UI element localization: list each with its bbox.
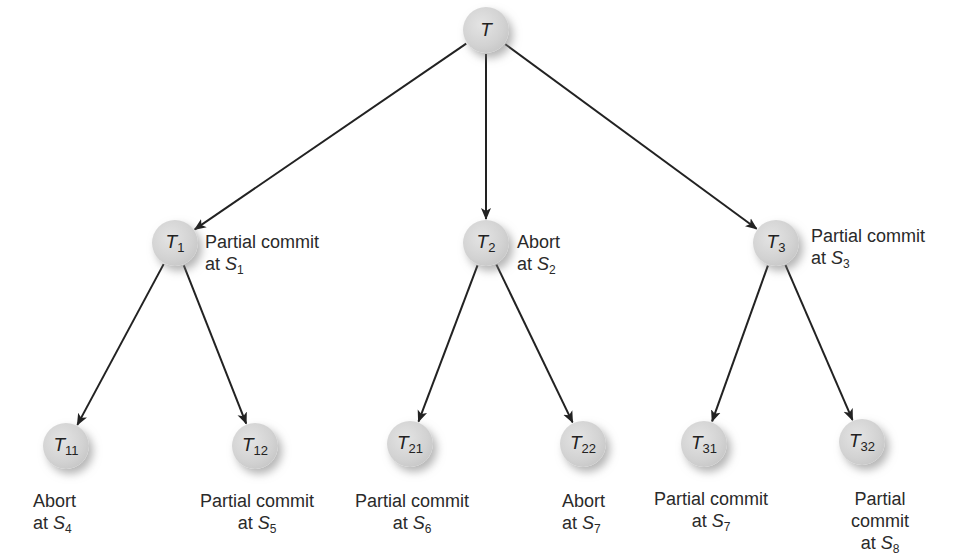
annotation-status: Abort [33,490,76,512]
annotation-t32: Partial commit at S8 [830,488,930,559]
node-t1: T1 [152,220,198,266]
annotation-at: at [861,533,876,553]
annotation-status: Abort [562,490,605,512]
node-label: T21 [397,432,423,456]
node-t2: T2 [463,220,509,266]
node-label: T2 [477,231,496,255]
site-label: S5 [258,513,277,533]
site-label: S3 [831,248,850,268]
annotation-t11: Abort at S4 [33,490,76,540]
annotation-status: Partial commit [355,490,469,512]
node-label: T3 [767,231,786,255]
annotation-at: at [238,513,253,533]
site-label: S2 [537,254,556,274]
annotation-t3: Partial commit at S3 [811,225,925,275]
annotation-status: Partial commit [205,231,319,253]
node-t22: T22 [560,421,606,467]
node-label: T1 [166,231,185,255]
site-label: S8 [881,533,900,553]
node-label: T12 [242,434,268,458]
annotation-t1: Partial commit at S1 [205,231,319,281]
annotation-t31: Partial commit at S7 [654,488,768,538]
node-t21: T21 [387,421,433,467]
edge-t3-t32 [786,265,853,420]
node-t31: T31 [681,421,727,467]
edge-t3-t31 [712,266,768,422]
edge-t2-t22 [496,265,572,423]
annotation-status: Abort [517,231,560,253]
annotation-at: at [205,254,220,274]
node-t12: T12 [232,423,278,469]
site-label: S4 [53,513,72,533]
annotation-t12: Partial commit at S5 [200,490,314,540]
annotation-at: at [562,513,577,533]
annotation-at: at [517,254,532,274]
annotation-t22: Abort at S7 [562,490,605,540]
node-label: T31 [691,432,717,456]
annotation-at: at [811,248,826,268]
edge-t1-t12 [184,265,246,423]
edge-t1-t11 [77,264,163,425]
site-label: S1 [225,254,244,274]
node-label: T32 [849,430,875,454]
annotation-status: Partial commit [830,488,930,532]
node-t11: T11 [43,423,89,469]
edge-t-t1 [195,44,466,230]
site-label: S7 [582,513,601,533]
node-label: T22 [570,432,596,456]
site-label: S7 [712,511,731,531]
annotation-status: Partial commit [200,490,314,512]
annotation-t21: Partial commit at S6 [355,490,469,540]
edge-t2-t21 [418,265,477,421]
site-label: S6 [413,513,432,533]
annotation-status: Partial commit [811,225,925,247]
node-label: T11 [53,434,78,458]
annotation-t2: Abort at S2 [517,231,560,281]
annotation-at: at [692,511,707,531]
node-label: T [480,19,492,41]
node-t32: T32 [839,419,885,465]
annotation-at: at [33,513,48,533]
node-t3: T3 [753,220,799,266]
node-t: T [463,7,509,53]
annotation-at: at [393,513,408,533]
annotation-status: Partial commit [654,488,768,510]
edge-t-t3 [505,44,756,229]
edges-layer [0,0,980,559]
